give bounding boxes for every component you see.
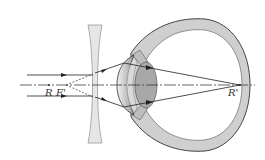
concave-lens (88, 25, 102, 143)
label-image-point: R' (227, 87, 238, 98)
label-focal-point: F' (55, 87, 66, 98)
virtual-ray-bottom (66, 85, 93, 97)
far-point-dot (48, 84, 50, 86)
virtual-ray-top (66, 74, 93, 85)
myopia-correction-diagram: R F' R' (0, 0, 265, 160)
arrow-head-bottom-refracted (101, 97, 107, 101)
label-far-point: R (44, 87, 53, 98)
arrow-head-top-refracted (101, 69, 107, 73)
arrow-head-top-incoming (61, 73, 67, 77)
image-point-dot (239, 84, 241, 86)
